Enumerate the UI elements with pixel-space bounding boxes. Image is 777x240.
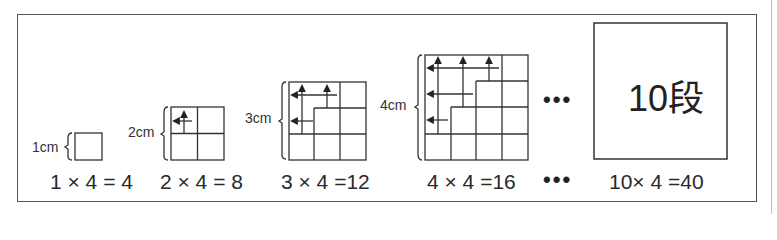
size-label-4: 4cm — [380, 97, 406, 113]
size-label-1: 1cm — [32, 139, 58, 155]
grid-2x2 — [161, 107, 224, 160]
grid-3x3 — [279, 82, 366, 160]
ellipsis-top: ••• — [543, 87, 572, 113]
grid-1x1 — [65, 133, 102, 160]
equation-4: 4 × 4 =16 — [427, 170, 516, 194]
ten-step-label: 10段 — [628, 69, 704, 121]
size-label-2: 2cm — [128, 124, 154, 140]
ellipsis-bottom: ••• — [543, 167, 572, 193]
equation-3: 3 × 4 =12 — [281, 170, 370, 194]
size-label-3: 3cm — [245, 110, 271, 126]
equation-final: 10× 4 =40 — [609, 170, 704, 194]
equation-2: 2 × 4 = 8 — [160, 170, 243, 194]
equation-1: 1 × 4 = 4 — [50, 170, 133, 194]
grid-4x4 — [415, 55, 528, 160]
